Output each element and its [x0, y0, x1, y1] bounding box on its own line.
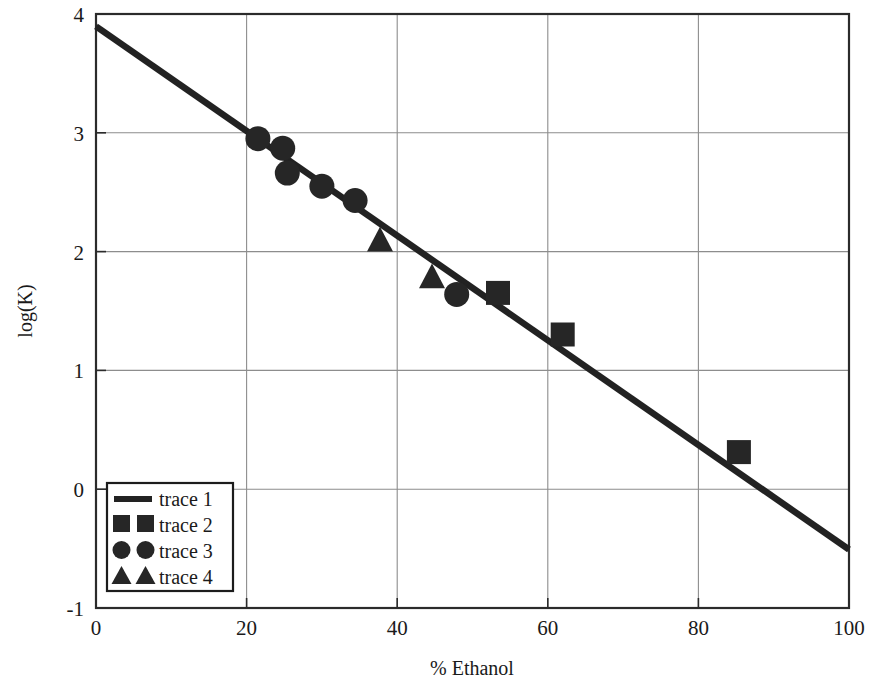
y-tick-label: -1 [67, 597, 85, 621]
data-point-circle [343, 188, 368, 213]
circle-swatch-icon [113, 541, 131, 559]
x-tick-label: 100 [833, 616, 865, 640]
legend-item-label: trace 3 [159, 540, 213, 562]
y-tick-label: 1 [74, 359, 85, 383]
y-tick-label: 3 [74, 122, 85, 146]
data-point-circle [444, 282, 469, 307]
x-tick-label: 60 [537, 616, 558, 640]
square-swatch-icon [113, 515, 130, 532]
legend-item-label: trace 2 [159, 514, 213, 536]
data-point-circle [275, 161, 300, 186]
data-point-circle [270, 136, 295, 161]
x-tick-label: 40 [387, 616, 408, 640]
data-point-square [486, 281, 510, 305]
chart-figure: 0 20 40 60 80 100 4 3 2 1 0 -1 % Ethanol… [0, 0, 883, 692]
legend-item-label: trace 4 [159, 566, 213, 588]
data-point-square [727, 440, 751, 464]
x-tick-label: 20 [236, 616, 257, 640]
y-tick-label: 2 [74, 241, 85, 265]
chart-svg: 0 20 40 60 80 100 4 3 2 1 0 -1 % Ethanol… [0, 0, 883, 692]
y-tick-label: 4 [74, 3, 85, 27]
data-point-square [551, 323, 575, 347]
data-point-circle [309, 174, 334, 199]
y-tick-label: 0 [74, 478, 85, 502]
chart-legend: trace 1 trace 2 trace 3 trace 4 [107, 483, 233, 591]
square-swatch-icon [137, 515, 154, 532]
y-axis-title: log(K) [14, 284, 37, 337]
x-tick-label: 0 [91, 616, 102, 640]
x-axis-title: % Ethanol [430, 657, 514, 679]
data-point-circle [245, 126, 270, 151]
x-tick-label: 80 [688, 616, 709, 640]
legend-item-label: trace 1 [159, 488, 213, 510]
circle-swatch-icon [137, 541, 155, 559]
